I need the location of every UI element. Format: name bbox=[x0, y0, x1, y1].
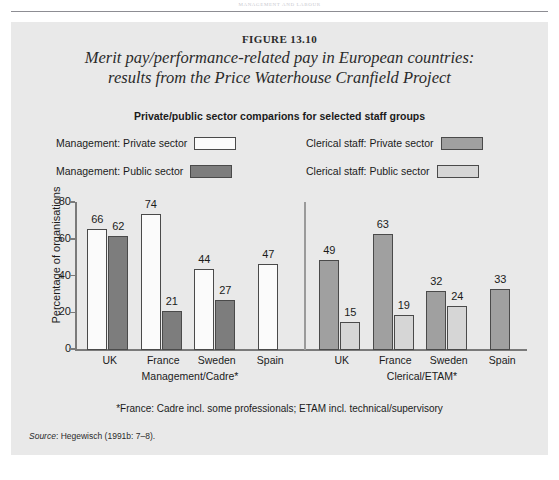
source-word: Source bbox=[29, 431, 56, 441]
source-citation: : Hegewisch (1991b: 7–8). bbox=[56, 431, 155, 441]
y-axis-tick-label: 80 bbox=[37, 195, 71, 207]
bar-value-label: 24 bbox=[441, 290, 473, 302]
legend-label: Clerical staff: Public sector bbox=[306, 165, 430, 177]
bar-value-label: 33 bbox=[484, 273, 516, 285]
y-axis-tick bbox=[69, 312, 75, 314]
bar bbox=[87, 229, 107, 350]
bar bbox=[319, 260, 339, 350]
running-head: MANAGEMENT AND LABOUR bbox=[0, 0, 559, 10]
y-axis-tick bbox=[69, 238, 75, 240]
legend-label: Management: Public sector bbox=[56, 165, 183, 177]
chart-footnote: *France: Cadre incl. some professionals;… bbox=[11, 403, 548, 414]
source-line: Source: Hegewisch (1991b: 7–8). bbox=[29, 431, 155, 441]
bar-value-label: 32 bbox=[420, 275, 452, 287]
bar-value-label: 49 bbox=[313, 244, 345, 256]
bar bbox=[340, 322, 360, 350]
bar bbox=[447, 306, 467, 350]
legend-label: Clerical staff: Private sector bbox=[306, 137, 434, 149]
legend-item-clerical-public: Clerical staff: Public sector bbox=[306, 163, 479, 179]
bar bbox=[194, 269, 214, 350]
legend-label: Management: Private sector bbox=[56, 137, 187, 149]
bar-value-label: 19 bbox=[388, 299, 420, 311]
x-axis-category-label: Spain bbox=[236, 354, 304, 366]
y-axis-tick bbox=[69, 348, 75, 350]
y-axis-tick-labels: 020406080 bbox=[29, 202, 71, 352]
chart-axis-area: 6662UK7421France4427Sweden47SpainManagem… bbox=[75, 202, 527, 350]
header-rule bbox=[11, 11, 548, 12]
legend-swatch-management-private bbox=[194, 137, 236, 150]
y-axis-tick-label: 40 bbox=[37, 269, 71, 281]
y-axis-line bbox=[75, 202, 77, 350]
bar-value-label: 27 bbox=[209, 284, 241, 296]
bar bbox=[490, 289, 510, 350]
figure-label: FIGURE 13.10 bbox=[11, 33, 548, 45]
y-axis-tick-label: 0 bbox=[37, 342, 71, 354]
y-axis-tick-label: 20 bbox=[37, 305, 71, 317]
y-axis-tick bbox=[69, 275, 75, 277]
bar bbox=[162, 311, 182, 350]
figure-title-line-2: results from the Price Waterhouse Cranfi… bbox=[41, 68, 518, 88]
legend-swatch-clerical-private bbox=[441, 137, 483, 150]
bar-value-label: 15 bbox=[334, 306, 366, 318]
bar bbox=[394, 315, 414, 350]
bar-value-label: 21 bbox=[156, 295, 188, 307]
legend-item-management-private: Management: Private sector bbox=[56, 135, 236, 151]
bar-value-label: 47 bbox=[252, 248, 284, 260]
figure-title-line-1: Merit pay/performance-related pay in Eur… bbox=[41, 48, 518, 68]
y-axis-tick bbox=[69, 201, 75, 203]
x-axis-group-label: Management/Cadre* bbox=[75, 370, 305, 382]
bar bbox=[108, 236, 128, 350]
x-axis-group-label: Clerical/ETAM* bbox=[307, 370, 537, 382]
bar-value-label: 62 bbox=[102, 220, 134, 232]
y-axis-tick-label: 60 bbox=[37, 232, 71, 244]
legend-swatch-clerical-public bbox=[437, 165, 479, 178]
figure-title: Merit pay/performance-related pay in Eur… bbox=[41, 48, 518, 88]
figure-panel: FIGURE 13.10 Merit pay/performance-relat… bbox=[11, 22, 548, 455]
bar-value-label: 44 bbox=[188, 253, 220, 265]
bar bbox=[258, 264, 278, 350]
bar bbox=[141, 214, 161, 350]
legend-item-management-public: Management: Public sector bbox=[56, 163, 232, 179]
bar-value-label: 63 bbox=[367, 218, 399, 230]
legend-swatch-management-public bbox=[190, 165, 232, 178]
bar bbox=[373, 234, 393, 350]
chart-legend: Management: Private sector Management: P… bbox=[29, 135, 530, 185]
x-axis-category-label: Spain bbox=[468, 354, 536, 366]
legend-item-clerical-private: Clerical staff: Private sector bbox=[306, 135, 483, 151]
panel-divider bbox=[304, 202, 306, 350]
chart-subtitle: Private/public sector comparions for sel… bbox=[11, 110, 548, 122]
bar-value-label: 74 bbox=[135, 198, 167, 210]
bar bbox=[215, 300, 235, 350]
chart-plot: Percentage of organisations 020406080 66… bbox=[29, 194, 530, 384]
